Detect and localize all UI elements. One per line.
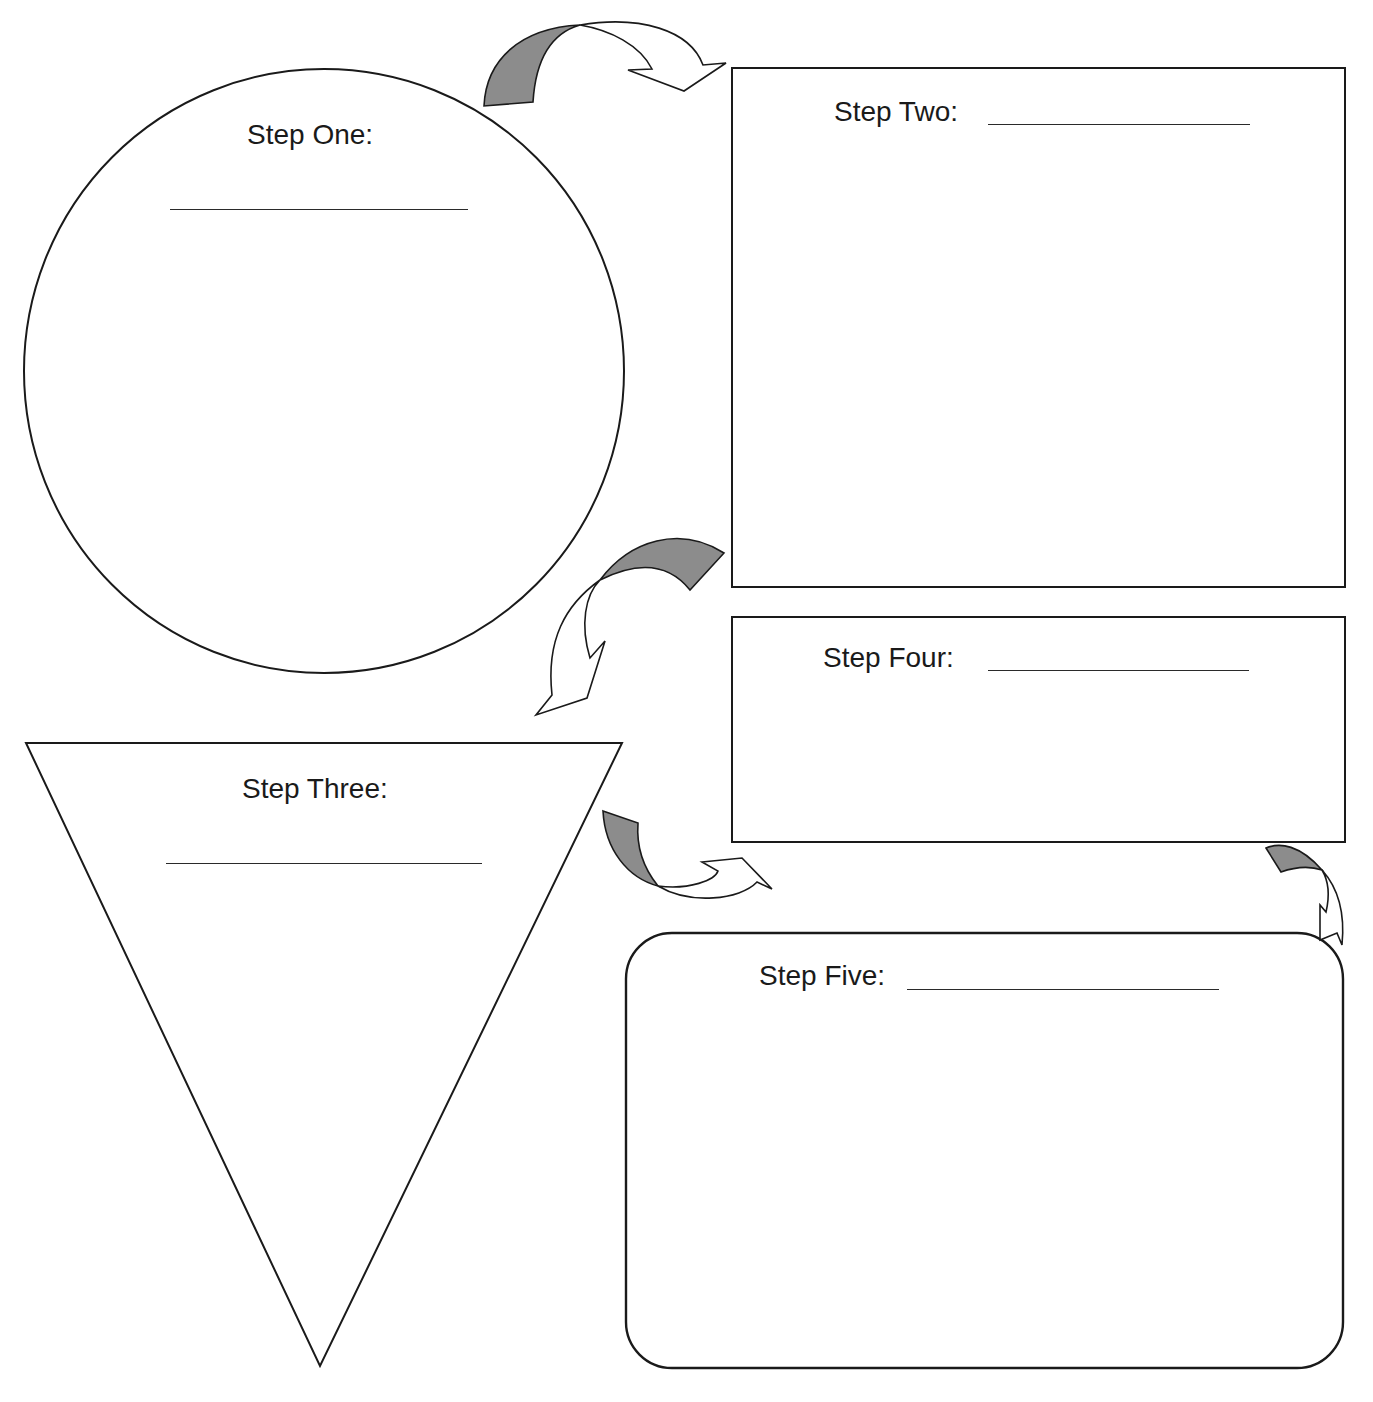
step-two-label: Step Two: xyxy=(834,98,958,126)
step-three-triangle xyxy=(26,743,622,1366)
step-three-label: Step Three: xyxy=(242,775,388,803)
step-four-blank-line[interactable] xyxy=(988,670,1249,671)
step-one-blank-line[interactable] xyxy=(170,209,468,210)
step-five-blank-line[interactable] xyxy=(907,989,1219,990)
step-five-label: Step Five: xyxy=(759,962,885,990)
step-four-label: Step Four: xyxy=(823,644,954,672)
curved-arrow-icon xyxy=(603,811,772,898)
step-one-circle xyxy=(24,69,624,673)
curved-arrow-icon xyxy=(484,22,726,106)
step-five-box xyxy=(626,933,1343,1368)
curved-arrow-icon xyxy=(1266,845,1343,945)
graphic-organizer xyxy=(0,0,1373,1402)
step-two-box xyxy=(732,68,1345,587)
step-two-blank-line[interactable] xyxy=(988,124,1250,125)
curved-arrow-icon xyxy=(536,539,724,715)
step-one-label: Step One: xyxy=(247,121,373,149)
step-three-blank-line[interactable] xyxy=(166,863,482,864)
